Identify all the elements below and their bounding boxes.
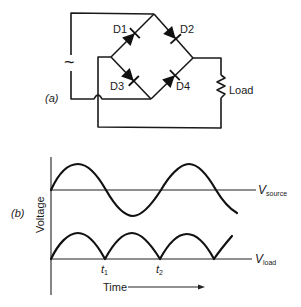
diode-d4-label: D4: [176, 80, 190, 92]
part-a-label: (a): [45, 92, 59, 104]
load-resistor-icon: [217, 75, 225, 98]
load-series-label: Vload: [255, 252, 276, 266]
waveform-graph: t1 t2 Vsource Vload Time Voltage (b): [11, 157, 287, 295]
source-series-label: Vsource: [258, 183, 287, 197]
circuit-diagram: ~ D1 D2 D3 D4 L: [45, 13, 253, 128]
diode-d2-label: D2: [180, 23, 194, 35]
bridge-rectifier-figure: ~ D1 D2 D3 D4 L: [0, 0, 301, 307]
load-return-wire: [98, 57, 221, 128]
figure-canvas: ~ D1 D2 D3 D4 L: [0, 0, 301, 307]
x-axis-label: Time: [103, 281, 127, 293]
time-arrowhead-icon: [198, 285, 205, 290]
part-b-label: (b): [11, 207, 25, 219]
tick-t2-label: t2: [156, 263, 163, 276]
tick-t1-label: t1: [101, 263, 108, 276]
diode-d3-label: D3: [110, 80, 124, 92]
load-voltage-curve: [51, 233, 232, 259]
load-top-wire: [193, 58, 221, 75]
diode-d1-label: D1: [113, 23, 127, 35]
y-axis-label: Voltage: [34, 196, 46, 233]
ac-source-icon: ~: [64, 52, 75, 72]
load-label: Load: [229, 84, 253, 96]
